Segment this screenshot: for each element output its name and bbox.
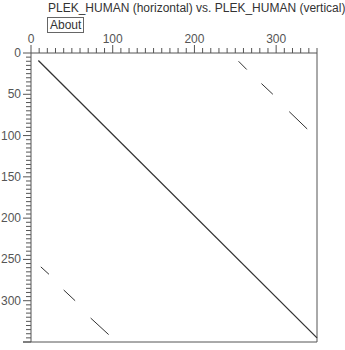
match-segment: [239, 61, 247, 69]
match-segment: [289, 112, 307, 129]
y-tick-label: 50: [8, 87, 22, 101]
x-tick-label: 0: [28, 32, 35, 46]
x-tick-label: 200: [184, 32, 204, 46]
match-segment: [91, 318, 109, 335]
x-tick-label: 100: [103, 32, 123, 46]
match-segment: [261, 84, 272, 95]
y-tick-label: 150: [1, 170, 21, 184]
y-tick-label: 0: [14, 46, 21, 60]
main-diagonal-line: [38, 60, 317, 337]
y-tick-label: 300: [1, 294, 21, 308]
y-tick-label: 100: [1, 129, 21, 143]
match-segment: [41, 267, 49, 274]
y-tick-label: 200: [1, 211, 21, 225]
match-segment: [64, 290, 75, 301]
y-tick-label: 250: [1, 252, 21, 266]
x-tick-label: 300: [266, 32, 286, 46]
